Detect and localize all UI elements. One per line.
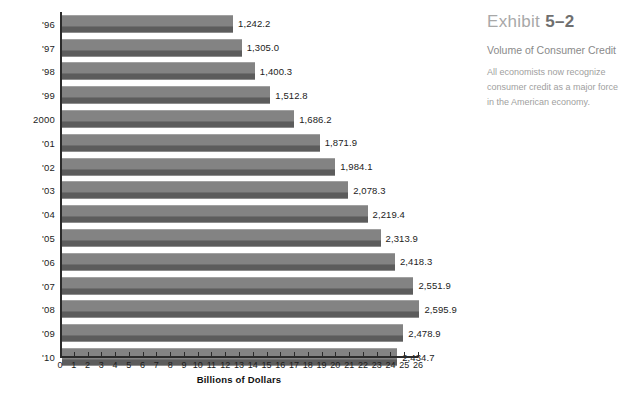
x-axis-tick-label: 17	[289, 360, 299, 370]
bar	[62, 15, 233, 32]
bar-row: '011,871.9	[0, 131, 450, 155]
bar-value-label: 2,313.9	[386, 233, 418, 244]
bar-value-label: 2,595.9	[424, 304, 456, 315]
x-axis-tick	[129, 352, 130, 357]
exhibit-caption: Exhibit 5–2 Volume of Consumer Credit Al…	[487, 12, 620, 110]
x-axis-tick	[211, 352, 212, 357]
bar-top-face	[62, 253, 395, 264]
bar-bottom-face	[62, 312, 419, 318]
bar-container: 2,551.9	[62, 277, 413, 294]
bar-bottom-face	[62, 193, 348, 199]
bar-row: '991,512.8	[0, 83, 450, 107]
x-axis-tick-label: 12	[220, 360, 230, 370]
x-axis-tick	[280, 352, 281, 357]
bar-value-label: 1,984.1	[340, 161, 372, 172]
x-axis-tick-label: 11	[207, 360, 216, 370]
bar-value-label: 1,686.2	[299, 114, 331, 125]
x-axis-tick	[349, 352, 350, 357]
x-axis-line: 0123456789101112131415161718192021222324…	[60, 356, 418, 358]
x-axis-tick-label: 5	[126, 360, 131, 370]
bar-bottom-face	[62, 169, 335, 175]
exhibit-figure: '961,242.2'971,305.0'981,400.3'991,512.8…	[0, 0, 624, 407]
bar-row: '062,418.3	[0, 250, 450, 274]
bar-top-face	[62, 301, 419, 312]
bar-container: 1,400.3	[62, 63, 255, 80]
category-label: '04	[0, 209, 55, 220]
x-axis-tick	[115, 352, 116, 357]
category-label: '03	[0, 185, 55, 196]
x-axis-tick-label: 6	[140, 360, 145, 370]
x-axis-tick-label: 20	[330, 360, 340, 370]
bar-row: '082,595.9	[0, 298, 450, 322]
category-label: '96	[0, 18, 55, 29]
category-label: '99	[0, 90, 55, 101]
x-axis-tick	[74, 352, 75, 357]
bar-value-label: 2,418.3	[400, 256, 432, 267]
bar-value-label: 2,551.9	[418, 280, 450, 291]
x-axis-tick	[253, 352, 254, 357]
exhibit-body-text: All economists now recognize consumer cr…	[487, 65, 620, 110]
category-label: '09	[0, 328, 55, 339]
bar-bottom-face	[62, 217, 368, 223]
bar-container: 1,305.0	[62, 39, 242, 56]
x-axis-tick	[377, 352, 378, 357]
bar	[62, 206, 368, 223]
x-axis-tick	[404, 352, 405, 357]
bar	[62, 230, 381, 247]
bar	[62, 39, 242, 56]
bar-value-label: 1,400.3	[260, 66, 292, 77]
exhibit-word: Exhibit	[487, 12, 540, 31]
x-axis-tick-label: 0	[57, 360, 62, 370]
bar-bottom-face	[62, 145, 320, 151]
x-axis-tick-label: 1	[71, 360, 76, 370]
category-label: '07	[0, 280, 55, 291]
bar-container: 2,078.3	[62, 182, 348, 199]
bar	[62, 182, 348, 199]
x-axis-tick	[418, 352, 419, 357]
bar-top-face	[62, 134, 320, 145]
x-axis-tick	[143, 352, 144, 357]
category-label: '01	[0, 137, 55, 148]
x-axis-tick-label: 21	[344, 360, 354, 370]
exhibit-number: 5–2	[545, 12, 574, 31]
bar-chart: '961,242.2'971,305.0'981,400.3'991,512.8…	[0, 0, 450, 407]
bar-container: 1,984.1	[62, 158, 335, 175]
x-axis-tick-label: 22	[358, 360, 368, 370]
bar-bottom-face	[62, 98, 270, 104]
bar-top-face	[62, 182, 348, 193]
bar-row: '042,219.4	[0, 202, 450, 226]
category-label: '02	[0, 161, 55, 172]
bar-value-label: 2,219.4	[373, 209, 405, 220]
category-label: '98	[0, 66, 55, 77]
x-axis-tick-label: 7	[154, 360, 159, 370]
bar-bottom-face	[62, 288, 413, 294]
x-axis-tick-label: 8	[168, 360, 173, 370]
bar-bottom-face	[62, 26, 233, 32]
bar-container: 2,219.4	[62, 206, 368, 223]
x-axis-tick-label: 23	[372, 360, 382, 370]
bar-container: 1,242.2	[62, 15, 233, 32]
x-axis-tick	[225, 352, 226, 357]
chart-plot-area: '961,242.2'971,305.0'981,400.3'991,512.8…	[0, 12, 450, 354]
category-label: '06	[0, 256, 55, 267]
x-axis-title: Billions of Dollars	[60, 374, 418, 385]
category-label: 2000	[0, 114, 55, 125]
bar-row: '032,078.3	[0, 179, 450, 203]
x-axis-tick	[335, 352, 336, 357]
bar-value-label: 2,478.9	[408, 328, 440, 339]
bar-row: '092,478.9	[0, 321, 450, 345]
bar-top-face	[62, 325, 403, 336]
bar-top-face	[62, 87, 270, 98]
x-axis-tick-label: 13	[234, 360, 244, 370]
x-axis-tick-label: 16	[275, 360, 285, 370]
exhibit-heading: Exhibit 5–2	[487, 12, 620, 32]
bar-container: 1,512.8	[62, 87, 270, 104]
x-axis-tick-label: 26	[413, 360, 423, 370]
bar-container: 1,871.9	[62, 134, 320, 151]
bar	[62, 158, 335, 175]
bar-row: '971,305.0	[0, 36, 450, 60]
bar-container: 1,686.2	[62, 111, 294, 128]
bar-row: 20001,686.2	[0, 107, 450, 131]
y-axis-line	[60, 12, 62, 356]
bar-row: '072,551.9	[0, 274, 450, 298]
